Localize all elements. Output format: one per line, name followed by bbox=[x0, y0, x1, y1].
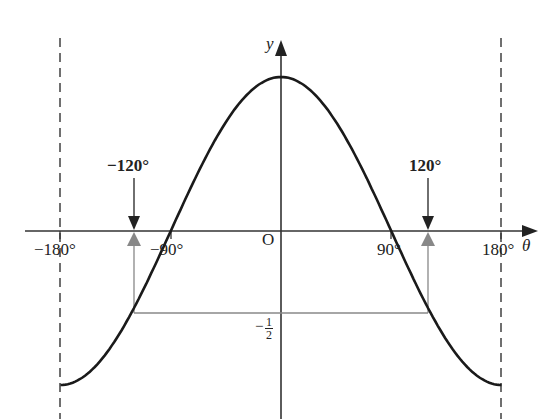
tick-label-90: 90° bbox=[377, 240, 401, 260]
x-axis-label: θ bbox=[522, 236, 530, 256]
down-arrow-120-icon bbox=[422, 216, 434, 230]
half-label-denominator: 2 bbox=[265, 329, 273, 341]
plot-svg bbox=[0, 0, 551, 419]
tick-label-180: 180° bbox=[482, 240, 514, 260]
half-label-minus: − bbox=[255, 318, 263, 335]
tick-label-minus90: −90° bbox=[150, 240, 183, 260]
origin-label: O bbox=[262, 230, 274, 250]
up-arrow-120-icon bbox=[421, 232, 435, 246]
down-arrow-minus120-icon bbox=[128, 216, 140, 230]
tick-label-minus180: −180° bbox=[34, 240, 76, 260]
y-axis-arrow-icon bbox=[275, 40, 287, 56]
marker-label-120: 120° bbox=[409, 156, 441, 176]
y-axis-label: y bbox=[266, 34, 274, 54]
up-arrow-minus120-icon bbox=[127, 232, 141, 246]
marker-label-minus120: −120° bbox=[107, 156, 149, 176]
cosine-diagram: y θ O −180° −90° 90° 180° −120° 120° − 1… bbox=[0, 0, 551, 419]
half-label-fraction: 1 2 bbox=[265, 316, 273, 341]
